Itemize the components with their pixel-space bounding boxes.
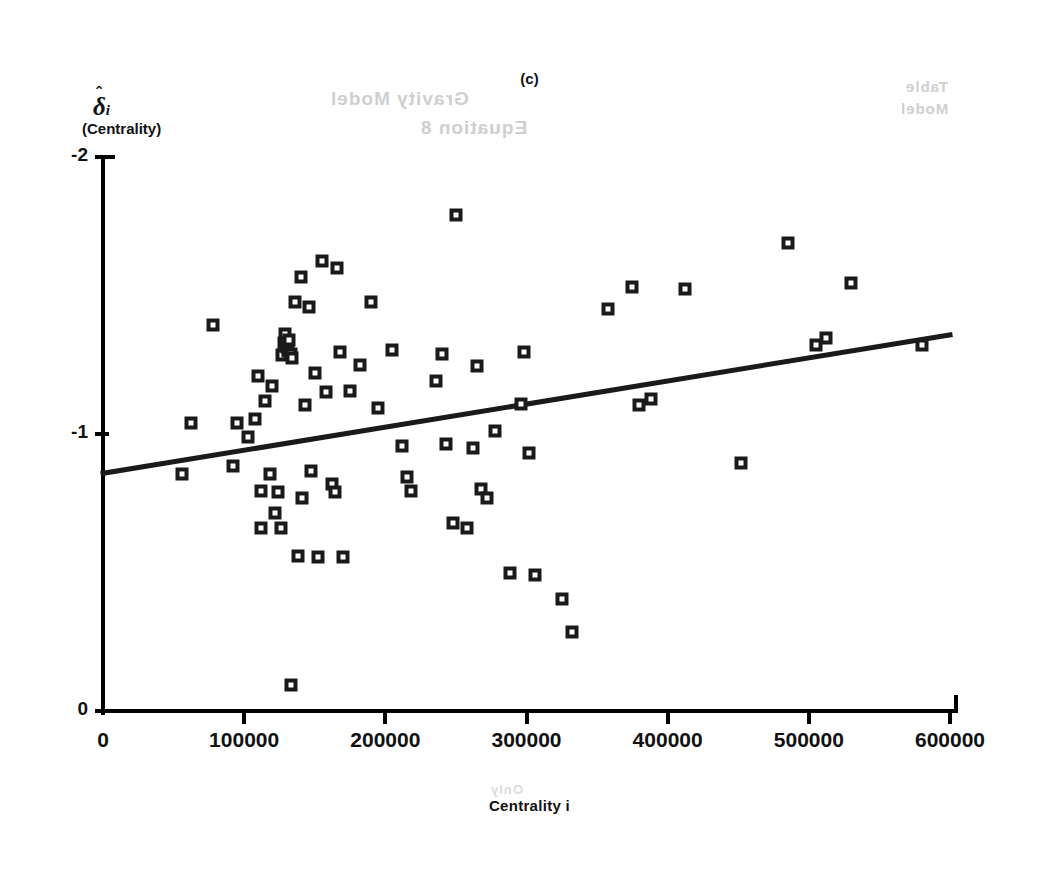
scatter-point: [365, 296, 378, 309]
scatter-point: [286, 351, 299, 364]
scatter-point: [489, 425, 502, 438]
scatter-point: [466, 441, 479, 454]
scatter-point: [184, 416, 197, 429]
scatter-point: [678, 282, 691, 295]
scatter-point: [320, 386, 333, 399]
scatter-point: [461, 522, 474, 535]
scatter-point: [331, 261, 344, 274]
scatter-point: [480, 491, 493, 504]
scatter-point: [735, 457, 748, 470]
scatter-point: [644, 393, 657, 406]
scatter-point: [528, 569, 541, 582]
scatter-point: [231, 416, 244, 429]
scatter-point: [626, 281, 639, 294]
figure-canvas: Gravity Model Equation 8 Table Model Onl…: [0, 0, 1059, 875]
scatter-point: [311, 551, 324, 564]
scatter-point: [226, 459, 239, 472]
scatter-point: [298, 398, 311, 411]
scatter-point: [274, 522, 287, 535]
scatter-point: [288, 296, 301, 309]
scatter-point: [845, 277, 858, 290]
scatter-point: [255, 484, 268, 497]
scatter-point: [449, 209, 462, 222]
scatter-point: [602, 303, 615, 316]
scatter-point: [386, 343, 399, 356]
scatter-point: [272, 486, 285, 499]
scatter-point: [565, 626, 578, 639]
scatter-point: [176, 468, 189, 481]
scatter-point: [353, 358, 366, 371]
scatter-point: [400, 470, 413, 483]
scatter-point: [334, 346, 347, 359]
scatter-point: [242, 430, 255, 443]
scatter-point: [336, 551, 349, 564]
scatter-point: [517, 346, 530, 359]
scatter-point: [430, 375, 443, 388]
scatter-point: [291, 549, 304, 562]
plot-data-area: [0, 0, 1059, 875]
scatter-point: [440, 437, 453, 450]
scatter-point: [303, 300, 316, 313]
scatter-point: [396, 440, 409, 453]
scatter-point: [304, 465, 317, 478]
regression-line: [0, 0, 1059, 875]
scatter-point: [252, 369, 265, 382]
scatter-point: [283, 333, 296, 346]
scatter-point: [819, 332, 832, 345]
scatter-point: [503, 566, 516, 579]
scatter-point: [781, 236, 794, 249]
scatter-point: [404, 484, 417, 497]
scatter-point: [259, 394, 272, 407]
scatter-point: [372, 401, 385, 414]
scatter-point: [435, 347, 448, 360]
scatter-point: [328, 486, 341, 499]
scatter-point: [284, 678, 297, 691]
scatter-point: [315, 254, 328, 267]
scatter-point: [344, 385, 357, 398]
scatter-point: [255, 522, 268, 535]
scatter-point: [514, 397, 527, 410]
scatter-point: [263, 468, 276, 481]
scatter-point: [471, 360, 484, 373]
scatter-point: [294, 271, 307, 284]
scatter-point: [207, 318, 220, 331]
scatter-point: [915, 339, 928, 352]
scatter-point: [269, 506, 282, 519]
scatter-point: [523, 447, 536, 460]
scatter-point: [447, 516, 460, 529]
scatter-point: [555, 592, 568, 605]
scatter-point: [308, 367, 321, 380]
scatter-point: [266, 379, 279, 392]
scatter-point: [296, 491, 309, 504]
scatter-point: [249, 412, 262, 425]
